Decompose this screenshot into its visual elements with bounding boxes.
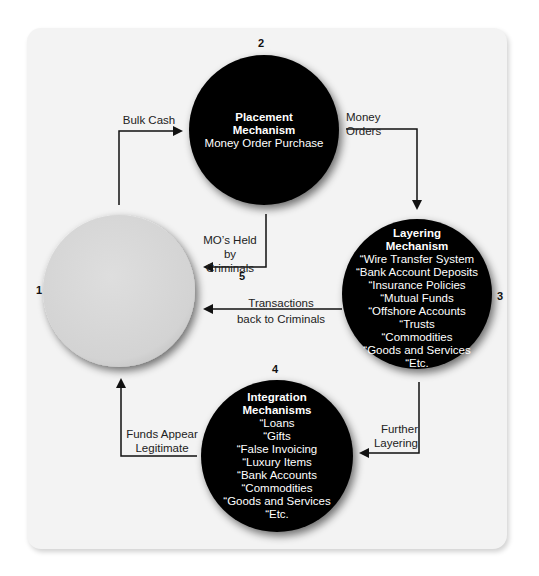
label-funds-2: Legitimate — [126, 441, 198, 455]
layering-item: “Wire Transfer System — [342, 253, 492, 266]
integration-item: “Luxury Items — [202, 456, 352, 469]
placement-subtitle: Money Order Purchase — [194, 137, 334, 150]
label-money-orders: Money Orders — [346, 110, 416, 138]
label-mo-held: MO’s Held by Criminals — [196, 233, 264, 275]
integration-title-2: Mechanisms — [202, 404, 352, 417]
layering-item: “Mutual Funds — [342, 292, 492, 305]
label-mo-held-2: Criminals — [196, 261, 264, 275]
layering-title-2: Mechanism — [342, 240, 492, 253]
integration-item: “Commodities — [202, 482, 352, 495]
node-5-number: 5 — [239, 270, 245, 282]
label-transactions: Transactions back to Criminals — [226, 295, 336, 327]
node-1-circle — [43, 215, 195, 367]
node-1-number: 1 — [36, 284, 42, 296]
integration-item: “Etc. — [202, 508, 352, 521]
layering-item: “Insurance Policies — [342, 279, 492, 292]
arrow-bulk-cash — [119, 131, 181, 205]
placement-title-1: Placement — [194, 111, 334, 124]
layering-item: “Etc. — [342, 357, 492, 370]
arrow-money-orders — [346, 129, 417, 208]
label-mo-held-1: MO’s Held by — [196, 233, 264, 261]
label-further-layering: Further Layering — [370, 422, 418, 450]
layering-item: “Offshore Accounts — [342, 305, 492, 318]
placement-text: Placement Mechanism Money Order Purchase — [194, 111, 334, 150]
layering-item: “Goods and Services — [342, 344, 492, 357]
label-transactions-1: Transactions — [226, 295, 336, 311]
label-funds-1: Funds Appear — [126, 427, 198, 441]
node-2-number: 2 — [258, 37, 264, 49]
integration-item: “Loans — [202, 417, 352, 430]
label-further-2: Layering — [370, 436, 418, 450]
layering-item: “Trusts — [342, 318, 492, 331]
label-further-1: Further — [370, 422, 418, 436]
layering-item: “Bank Account Deposits — [342, 266, 492, 279]
integration-text: Integration Mechanisms “Loans “Gifts “Fa… — [202, 391, 352, 521]
layering-text: Layering Mechanism “Wire Transfer System… — [342, 227, 492, 370]
integration-item: “False Invoicing — [202, 443, 352, 456]
integration-item: “Goods and Services — [202, 495, 352, 508]
label-transactions-2: back to Criminals — [226, 311, 336, 327]
label-bulk-cash: Bulk Cash — [119, 113, 179, 127]
layering-title-1: Layering — [342, 227, 492, 240]
placement-title-2: Mechanism — [194, 124, 334, 137]
layering-item: “Commodities — [342, 331, 492, 344]
integration-item: “Bank Accounts — [202, 469, 352, 482]
node-3-number: 3 — [497, 290, 503, 302]
integration-title-1: Integration — [202, 391, 352, 404]
label-funds-legitimate: Funds Appear Legitimate — [126, 427, 198, 455]
node-4-number: 4 — [272, 363, 278, 375]
integration-item: “Gifts — [202, 430, 352, 443]
